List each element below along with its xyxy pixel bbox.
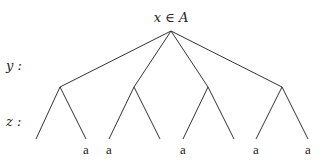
root-label: x ∈ A [154,10,189,25]
edge-y4-to-leaf8 [282,87,308,139]
edge-y2-to-leaf4 [134,87,160,139]
edge-y1-to-leaf1 [36,87,60,139]
edge-root-to-y1 [60,31,171,87]
edge-y4-to-leaf7 [256,87,282,139]
level-label-z: z : [5,114,21,129]
leaf-labels: aaaaa [83,142,311,157]
leaf-label-5: a [180,142,186,157]
leaf-label-8: a [305,142,311,157]
edge-y2-to-leaf3 [109,87,134,139]
edge-y1-to-leaf2 [60,87,86,139]
level-label-y: y : [5,58,22,73]
edge-y3-to-leaf5 [183,87,208,139]
edge-root-to-y4 [171,31,282,87]
edge-root-to-y3 [171,31,208,87]
tree-edges [36,31,308,139]
leaf-label-2: a [83,142,89,157]
edge-y3-to-leaf6 [208,87,234,139]
tree-diagram: x ∈ A y : z : aaaaa [0,0,326,166]
edge-root-to-y2 [134,31,171,87]
leaf-label-3: a [106,142,112,157]
leaf-label-7: a [253,142,259,157]
